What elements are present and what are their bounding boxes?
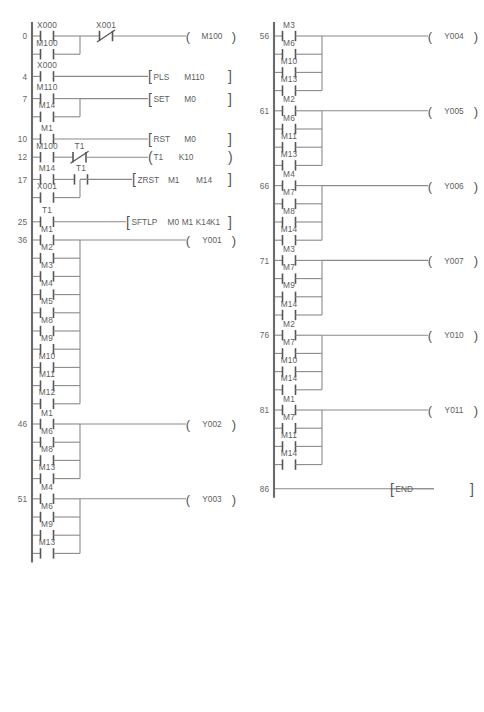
left-rung-51-contact-2-0-label: M9 [41,519,53,529]
left-rung-51-coil-Y003-paren-right: ) [232,492,236,507]
right-rung-66-contact-3-0-label: M14 [281,224,298,234]
left-rung-7-contact-0-0-label: M110 [37,82,58,92]
right-rung-71-coil-Y007-label: Y007 [444,256,464,266]
left-rung-17-instr-ZRST-bracket-close: ] [228,171,232,187]
left-rung-46-coil-Y002-label: Y002 [202,419,222,429]
right-rung-86-instr-END-name: END [396,484,414,494]
left-rung-0-contact-1-0: M100 [36,38,58,60]
left-rung-36-contact-7-0-label: M10 [39,351,56,361]
left-rung-17-instr-ZRST-operand-0: M1 [168,175,180,185]
left-rung-25-instr-SFTLP-operand-2: K14 [196,217,211,227]
right-rung-86-instr-END-bracket-close: ] [470,481,474,497]
right-rung-81-contact-3-0-label: M14 [281,448,298,458]
right-rung-76-contact-3-0: M14 [281,373,298,395]
left-rung-17-instr-ZRST-operand-1: M14 [196,175,213,185]
left-rung-36-coil-Y001-label: Y001 [202,235,222,245]
left-rung-51-contact-1-0-label: M6 [41,501,53,511]
left-rung-12-instr-T1-name: T1 [154,152,164,162]
left-rung-36-contact-1-0-label: M2 [41,242,53,252]
right-rung-66-contact-3-0: M14 [281,224,298,246]
right-rung-61-contact-3-0: M13 [281,149,298,171]
right-rung-81-coil-Y011-label: Y011 [445,405,464,415]
left-rung-25-instr-SFTLP-name: SFTLP [132,217,158,227]
left-rung-12-instr-T1-bracket-open: ( [148,149,153,165]
left-rung-4-instr-PLS-bracket-close: ] [228,68,232,84]
right-rung-81-coil-Y011-paren-right: ) [474,403,478,418]
left-rung-4-contact-0-0-label: X000 [37,60,57,70]
left-rung-7-instr-SET-name: SET [154,94,170,104]
left-rung-25-instr-SFTLP-bracket-open: [ [126,214,130,230]
right-rung-66-contact-0-0-label: M4 [283,169,295,179]
left-rung-0-coil-M100-paren-right: ) [232,29,236,44]
left-rung-7-contact-1-0-label: M14 [39,100,56,110]
left-rung-17-contact-0-0-label: M14 [39,163,56,173]
left-rung-10-instr-RST-bracket-open: [ [148,131,152,147]
right-rung-76-contact-2-0-label: M10 [281,355,298,365]
left-rung-0-series-contact-0-label: X001 [96,20,116,30]
right-rung-76-coil-Y010: (Y010) [428,328,478,343]
left-rung-36-contact-3-0-label: M4 [41,278,53,288]
left-rung-36-contact-4-0-label: M5 [41,296,53,306]
right-rung-71-contact-0-0-label: M3 [283,244,295,254]
left-rung-7-contact-1-0: M14 [39,100,56,122]
right-rung-66-step-number: 66 [260,181,270,191]
right-rung-76-coil-Y010-paren-left: ( [428,328,433,343]
right-rung-71-coil-Y007-paren-left: ( [428,253,433,268]
ladder-diagram-sheet: 0X000M100X001(M100)4X000[PLSM110]7M110M1… [0,0,484,712]
left-rung-0-coil-M100: (M100) [186,29,236,44]
left-rung-17-contact-1-0-label: X001 [37,181,57,191]
right-rung-66-contact-2-0-label: M8 [283,206,295,216]
left-rung-0-contact-1-0-label: M100 [36,38,58,48]
right-rung-56-coil-Y004-paren-left: ( [428,29,433,44]
left-rung-7-instr-SET-operand-0: M0 [184,94,196,104]
left-rung-12-series-contact-0-label: T1 [74,141,84,151]
left-rung-46-contact-3-0: M13 [39,462,56,484]
right-rung-76-coil-Y010-paren-right: ) [474,328,478,343]
left-rung-46-step-number: 46 [18,419,28,429]
left-rung-4-step-number: 4 [22,72,27,82]
left-rung-51-coil-Y003-paren-left: ( [186,492,191,507]
right-rung-66-coil-Y006: (Y006) [428,179,478,194]
right-rung-61-step-number: 61 [260,106,270,116]
left-rung-46-contact-1-0-label: M6 [41,426,53,436]
right-rung-61-contact-1-0-label: M6 [283,113,295,123]
left-rung-0-coil-M100-label: M100 [202,31,223,41]
left-rung-4-instr-PLS-operand-0: M110 [184,72,205,82]
left-rung-10-instr-RST-bracket-close: ] [228,131,232,147]
ladder-logic-canvas: 0X000M100X001(M100)4X000[PLSM110]7M110M1… [0,0,484,712]
left-rung-4-instr-PLS-name: PLS [154,72,170,82]
left-rung-25-instr-SFTLP: [SFTLPM0M1K14K1] [126,214,232,230]
left-rung-25-contact-0-0-label: T1 [42,205,52,215]
left-rung-51-coil-Y003: (Y003) [186,492,236,507]
left-rung-46-contact-3-0-label: M13 [39,462,56,472]
left-rung-46-coil-Y002: (Y002) [186,417,236,432]
right-rung-61-coil-Y005-paren-right: ) [474,104,478,119]
left-rung-51-contact-3-0: M13 [39,537,56,559]
right-rung-76-contact-0-0-label: M2 [283,319,295,329]
left-rung-36-coil-Y001-paren-right: ) [232,233,236,248]
left-rung-12-contact-0-0: M100 [36,141,58,163]
left-rung-0-series-contact-0: X001 [96,20,116,43]
left-rung-10-instr-RST-name: RST [154,134,171,144]
right-rung-76-contact-1-0-label: M7 [283,337,295,347]
right-rung-86-step-number: 86 [260,484,270,494]
left-rung-51-contact-0-0-label: M4 [41,482,53,492]
left-rung-36-coil-Y001-paren-left: ( [186,233,191,248]
right-rung-71-coil-Y007-paren-right: ) [474,253,478,268]
right-rung-71-contact-1-0-label: M7 [283,262,295,272]
right-rung-56-step-number: 56 [260,31,270,41]
left-rung-36-coil-Y001: (Y001) [186,233,236,248]
right-rung-61-contact-0-0-label: M2 [283,94,295,104]
left-rung-12-instr-T1-bracket-close: ) [228,149,233,165]
right-rung-71-step-number: 71 [260,256,270,266]
left-rung-36-step-number: 36 [18,235,28,245]
left-rung-7-instr-SET-bracket-open: [ [148,91,152,107]
left-rung-0-contact-0-0-label: X000 [37,20,57,30]
left-rung-17-contact-0-1: T1 [75,163,88,185]
left-rung-10-step-number: 10 [18,134,28,144]
right-rung-81-contact-1-0-label: M7 [283,412,295,422]
left-rung-25-instr-SFTLP-bracket-close: ] [228,214,232,230]
left-rung-36-contact-2-0-label: M3 [41,260,53,270]
right-rung-61-contact-2-0-label: M11 [281,131,297,141]
left-rung-46-coil-Y002-paren-left: ( [186,417,191,432]
